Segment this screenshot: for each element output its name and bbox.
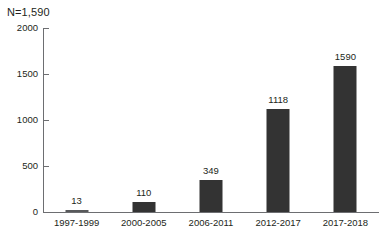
- bar-value-label: 13: [71, 195, 82, 206]
- bar-value-label: 349: [203, 165, 219, 176]
- y-axis-tick-label: 0: [0, 207, 38, 217]
- y-axis-tick-label: 1000: [0, 115, 38, 125]
- y-axis-tick-label: 2000: [0, 23, 38, 33]
- bar-value-label: 1118: [268, 94, 288, 105]
- bar-value-label: 110: [136, 187, 151, 198]
- y-axis-tick: [43, 212, 49, 213]
- bar[interactable]: [65, 210, 88, 212]
- y-axis-tick-label: 1500: [0, 69, 38, 79]
- bar-group: 13: [43, 28, 110, 212]
- x-axis-category-label: 2017-2018: [312, 217, 379, 228]
- bar[interactable]: [334, 66, 357, 212]
- plot-area: 1311034911181590: [43, 28, 379, 212]
- bar[interactable]: [199, 180, 222, 212]
- x-axis-category-label: 2012-2017: [245, 217, 312, 228]
- bar-group: 349: [177, 28, 244, 212]
- bar-value-label: 1590: [335, 51, 356, 62]
- x-axis-category-label: 2006-2011: [177, 217, 244, 228]
- y-axis-tick-label: 500: [0, 161, 38, 171]
- bar-group: 110: [110, 28, 177, 212]
- sample-size-annotation: N=1,590: [7, 6, 50, 18]
- x-axis-category-label: 2000-2005: [110, 217, 177, 228]
- bar-group: 1590: [312, 28, 379, 212]
- bar-chart: N=1,590 0500100015002000 131103491118159…: [0, 0, 385, 238]
- x-axis-category-label: 1997-1999: [43, 217, 110, 228]
- bar[interactable]: [132, 202, 155, 212]
- bar-group: 1118: [245, 28, 312, 212]
- bar[interactable]: [267, 109, 290, 212]
- x-axis-line: [43, 212, 379, 213]
